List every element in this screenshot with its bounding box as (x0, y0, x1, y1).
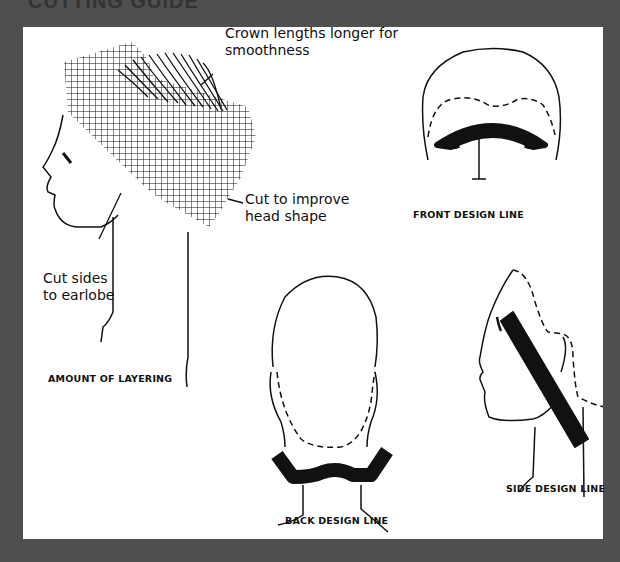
annotation-sides-line2: to earlobe (43, 287, 114, 304)
annotation-sides-line1: Cut sides (43, 270, 114, 287)
front-figure (423, 49, 561, 180)
caption-front-design-line: FRONT DESIGN LINE (413, 209, 524, 220)
annotation-crown-line2: smoothness (225, 42, 398, 59)
annotation-head-line1: Cut to improve (245, 191, 349, 208)
back-hairline-dashed (277, 372, 375, 447)
caption-side-design-line: SIDE DESIGN LINE (506, 483, 605, 494)
annotation-crown-line1: Crown lengths longer for (225, 25, 398, 42)
caption-amount-of-layering: AMOUNT OF LAYERING (48, 373, 172, 384)
illustration-panel: Crown lengths longer for smoothness Cut … (23, 27, 603, 539)
caption-back-design-line: BACK DESIGN LINE (285, 515, 388, 526)
back-figure (270, 276, 388, 532)
back-head-outline (272, 276, 377, 367)
side-design-line-band (501, 312, 588, 447)
back-design-line-band (277, 451, 387, 477)
page-heading: CUTTING GUIDE (28, 0, 199, 13)
annotation-crown: Crown lengths longer for smoothness (225, 25, 398, 59)
layering-figure (43, 42, 256, 387)
annotation-sides: Cut sides to earlobe (43, 270, 114, 304)
annotation-head-shape: Cut to improve head shape (245, 191, 349, 225)
annotation-head-line2: head shape (245, 208, 349, 225)
side-figure (479, 270, 603, 497)
